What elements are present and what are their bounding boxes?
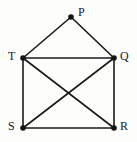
- graph-vertex-s: [20, 125, 26, 131]
- vertex-label-p: P: [78, 6, 85, 18]
- vertex-label-t: T: [8, 50, 16, 62]
- edge-layer: [23, 17, 114, 128]
- graph-vertex-p: [68, 14, 74, 20]
- graph-vertex-q: [111, 55, 117, 61]
- vertex-label-s: S: [8, 120, 15, 132]
- graph-edge-p-t: [23, 17, 71, 58]
- graph-edge-p-q: [71, 17, 114, 58]
- graph-vertex-t: [20, 55, 26, 61]
- vertex-label-q: Q: [120, 50, 129, 62]
- graph-canvas: [0, 0, 137, 142]
- vertex-label-r: R: [120, 120, 128, 132]
- vertex-layer: [20, 14, 117, 131]
- graph-vertex-r: [111, 125, 117, 131]
- graph-diagram: PTQSR: [0, 0, 137, 142]
